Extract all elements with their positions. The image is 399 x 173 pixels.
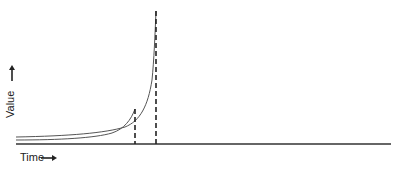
chart-canvas	[0, 0, 399, 173]
curve-1	[16, 109, 135, 140]
y-axis-label: Value	[4, 78, 16, 118]
x-axis-label: Time	[20, 151, 44, 163]
